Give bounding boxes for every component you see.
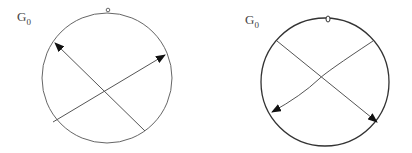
circle-diagram-left	[0, 0, 206, 153]
circle-diagram-right	[206, 0, 412, 153]
figure-right: G0	[206, 0, 412, 153]
arrow-up-left	[55, 43, 145, 131]
top-marker-icon	[106, 8, 110, 12]
boundary-circle	[261, 18, 389, 146]
arrow-down-right	[277, 41, 377, 122]
arrow-down-left	[272, 41, 373, 112]
figure-left: G0	[0, 0, 206, 153]
top-marker-icon	[326, 16, 330, 22]
arrow-up-right	[53, 55, 165, 122]
boundary-circle	[42, 13, 172, 143]
